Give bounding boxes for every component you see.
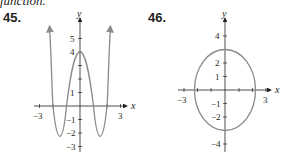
y-tick-label: 2	[215, 58, 220, 68]
x-tick-label: −3	[33, 111, 43, 121]
x-tick-label: −3	[177, 95, 187, 105]
y-tick-label: −2	[211, 112, 221, 122]
y-tick-label: 5	[70, 34, 75, 44]
y-axis-label: y	[76, 8, 82, 19]
graph-46: y x 4 2 1 −1 −2 −4 −3 3	[177, 8, 280, 152]
y-tick-label: −4	[211, 139, 221, 149]
x-axis-label: x	[274, 84, 280, 95]
y-tick-label: 1	[215, 72, 220, 82]
y-tick-label: 4	[215, 31, 220, 41]
y-tick-label: −3	[66, 142, 76, 152]
graph-45: y x 5 4 1 −1 −2 −3 −3 3	[33, 8, 136, 152]
y-tick-label: 4	[70, 47, 75, 57]
y-tick-label: 1	[70, 88, 75, 98]
y-axis-label: y	[221, 8, 227, 19]
graphs-canvas: y x 5 4 1 −1 −2 −3 −3 3	[0, 0, 286, 153]
x-tick-label: 3	[118, 111, 123, 121]
y-tick-label: −1	[66, 115, 76, 125]
y-tick-label: −2	[66, 128, 76, 138]
y-tick-label: −1	[211, 99, 221, 109]
x-axis-label: x	[130, 100, 136, 111]
x-tick-label: 3	[263, 95, 268, 105]
